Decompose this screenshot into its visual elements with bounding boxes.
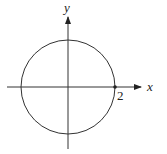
circle-diagram: x y 2: [0, 0, 167, 154]
point-label: 2: [117, 88, 124, 103]
y-axis-label: y: [62, 0, 70, 15]
x-axis-label: x: [146, 79, 153, 94]
